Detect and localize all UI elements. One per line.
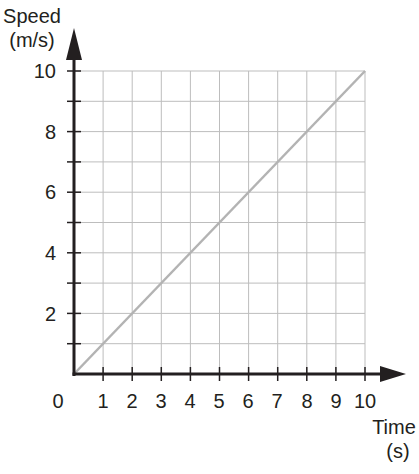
x-axis-arrow-icon bbox=[380, 366, 406, 382]
y-axis-title: Speed (m/s) bbox=[0, 4, 64, 52]
y-tick-label-8: 8 bbox=[16, 122, 56, 142]
x-tick-label-3: 3 bbox=[146, 391, 176, 411]
x-tick-label-2: 2 bbox=[117, 391, 147, 411]
x-tick-label-4: 4 bbox=[175, 391, 205, 411]
x-tick-label-9: 9 bbox=[321, 391, 351, 411]
y-tick-label-4: 4 bbox=[16, 243, 56, 263]
x-axis-title-line2: (s) bbox=[370, 439, 418, 463]
x-axis-title-line1: Time bbox=[370, 415, 418, 439]
x-tick-label-6: 6 bbox=[233, 391, 263, 411]
y-tick-label-6: 6 bbox=[16, 182, 56, 202]
y-tick-label-2: 2 bbox=[16, 304, 56, 324]
y-tick-label-10: 10 bbox=[16, 61, 56, 81]
x-tick-label-0: 0 bbox=[43, 391, 73, 411]
y-axis-title-line2: (m/s) bbox=[0, 28, 64, 52]
y-axis-title-line1: Speed bbox=[0, 4, 64, 28]
x-axis-title: Time (s) bbox=[370, 415, 418, 463]
x-tick-label-5: 5 bbox=[204, 391, 234, 411]
x-tick-label-10: 10 bbox=[350, 391, 380, 411]
axes bbox=[73, 60, 386, 376]
x-tick-label-1: 1 bbox=[88, 391, 118, 411]
x-tick-label-8: 8 bbox=[292, 391, 322, 411]
x-tick-label-7: 7 bbox=[262, 391, 292, 411]
y-axis-arrow-icon bbox=[66, 28, 82, 60]
